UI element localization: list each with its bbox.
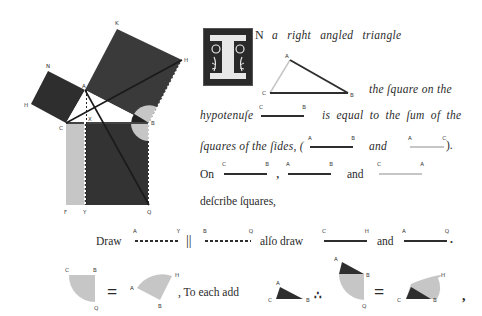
therefore-symbol: ∴ (314, 289, 322, 301)
svg-text:C: C (262, 90, 266, 96)
svg-text:A: A (334, 256, 338, 262)
segment-cb: CB (259, 104, 306, 117)
glyph-triangle-acb: A C B (266, 276, 316, 316)
svg-text:C: C (268, 297, 272, 303)
equals-2: = (374, 283, 384, 301)
label-c: C (59, 125, 63, 131)
text-line7d: and (377, 236, 394, 248)
text-line4b: and (369, 141, 387, 153)
label-a: A (82, 83, 86, 89)
glyph-abq: A B Q (330, 254, 380, 314)
label-y: Y (82, 209, 87, 215)
text-line6: deſcribe ſquares, (200, 196, 276, 208)
segment-on-cb: CB (222, 161, 269, 175)
svg-text:B: B (158, 303, 162, 309)
svg-text:H: H (441, 272, 445, 278)
rect-cfyx (66, 123, 85, 205)
text-line5c: and (347, 169, 364, 181)
svg-text:B: B (366, 272, 370, 278)
text-line4c: ). (446, 140, 453, 152)
text-line5a: On (200, 169, 214, 181)
text-line8b: , To each add (178, 287, 239, 299)
label-h: H (184, 57, 188, 63)
main-figure: K H N H A C X B F Y Q (0, 0, 200, 220)
text-line5b: , (276, 167, 280, 181)
text-line2: the ſquare on the (369, 84, 452, 96)
label-b: B (151, 120, 155, 126)
label-h2: H (24, 102, 28, 108)
text-line7a: Draw (96, 236, 122, 248)
svg-text:A: A (285, 53, 289, 59)
text-line7b-parallel: || (186, 234, 192, 248)
glyph-cbh: C B H (392, 266, 472, 316)
text-line3b: is equal to the ſum of the (322, 110, 462, 122)
text-line1: N (255, 29, 264, 42)
segment-ch: CH (322, 228, 369, 242)
glyph-sector-ahb: A H B (126, 266, 186, 316)
svg-text:H: H (175, 272, 179, 278)
glyph-quarter-cbq: C B Q (60, 262, 110, 312)
text-line4a: ſquares of the ſides, ( (200, 141, 304, 153)
label-x: X (88, 116, 92, 122)
text-line8e: , (462, 289, 466, 303)
segment-ay-dashed: AY (133, 228, 180, 242)
segment-ac: AC (408, 135, 446, 148)
label-q: Q (147, 209, 152, 215)
segment-bq-dashed: BQ (203, 228, 253, 242)
svg-text:C: C (397, 297, 401, 303)
decorative-initial: I (203, 28, 253, 86)
svg-text:A: A (130, 285, 134, 291)
header-triangle: A C B (260, 52, 360, 102)
segment-ab: AB (308, 135, 355, 148)
svg-text:Q: Q (362, 303, 367, 309)
svg-text:A: A (276, 280, 280, 286)
svg-text:B: B (350, 92, 354, 98)
equals-1: = (107, 283, 117, 301)
text-line7c: alſo draw (260, 236, 303, 248)
segment-aq: AQ (402, 228, 449, 242)
label-n: N (46, 63, 50, 69)
svg-text:Q: Q (94, 305, 99, 311)
svg-text:C: C (65, 267, 69, 273)
text-line3a: hypotenuſe (200, 110, 253, 122)
segment-on-ab: AB (286, 161, 333, 175)
text-line7e: . (450, 234, 453, 246)
segment-on-ca: CA (377, 161, 424, 175)
svg-text:B: B (306, 297, 310, 303)
text-line1-rest: a right angled triangle (272, 30, 401, 42)
label-f: F (64, 209, 67, 215)
label-k: K (115, 20, 119, 26)
svg-text:B: B (93, 267, 97, 273)
svg-text:B: B (433, 297, 437, 303)
